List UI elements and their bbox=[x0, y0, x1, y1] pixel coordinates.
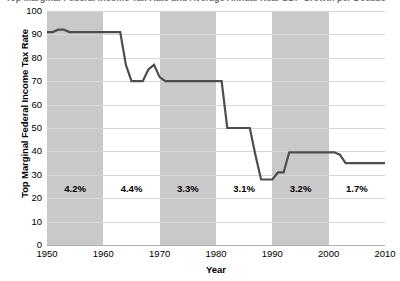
x-tick-label: 1950 bbox=[27, 248, 67, 259]
x-tick-label: 1970 bbox=[140, 248, 180, 259]
y-tick-label: 70 bbox=[18, 76, 42, 86]
y-tick-label: 10 bbox=[18, 217, 42, 227]
y-tick-label: 90 bbox=[18, 29, 42, 39]
x-tick-label: 1980 bbox=[196, 248, 236, 259]
decade-growth-label: 1.7% bbox=[333, 183, 381, 194]
decade-growth-label: 3.2% bbox=[277, 183, 325, 194]
y-tick-label: 60 bbox=[18, 100, 42, 110]
plot-area: 4.2%4.4%3.3%3.1%3.2%1.7% bbox=[47, 11, 385, 245]
y-tick-label: 50 bbox=[18, 123, 42, 133]
x-tick-label: 2010 bbox=[365, 248, 400, 259]
tax-rate-line-series bbox=[47, 11, 385, 245]
decade-growth-label: 4.4% bbox=[108, 183, 156, 194]
chart-title: Top Marginal Federal Income Tax Rate and… bbox=[0, 0, 391, 3]
decade-growth-label: 3.1% bbox=[220, 183, 268, 194]
decade-growth-label: 4.2% bbox=[51, 183, 99, 194]
decade-growth-label: 3.3% bbox=[164, 183, 212, 194]
y-tick-label: 40 bbox=[18, 146, 42, 156]
x-tick-label: 1960 bbox=[83, 248, 123, 259]
y-tick-label: 30 bbox=[18, 170, 42, 180]
x-tick-label: 1990 bbox=[252, 248, 292, 259]
x-tick-label: 2000 bbox=[309, 248, 349, 259]
gridline bbox=[47, 245, 385, 246]
y-tick-label: 80 bbox=[18, 53, 42, 63]
y-tick-label: 100 bbox=[18, 6, 42, 16]
y-tick-label: 20 bbox=[18, 193, 42, 203]
x-axis-title: Year bbox=[47, 264, 385, 275]
